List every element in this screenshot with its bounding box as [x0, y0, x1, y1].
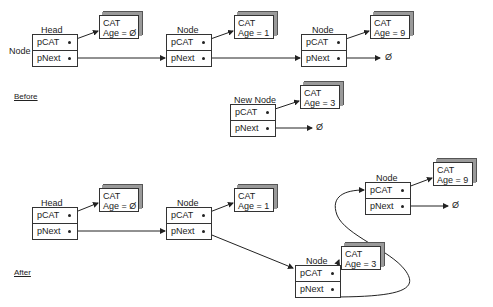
cat-box: CAT Age = 3 [341, 246, 381, 270]
cat-box: CAT Age = 1 [234, 188, 274, 212]
pcat-label: pCAT [171, 210, 193, 220]
pcat-field: pCAT [366, 183, 410, 198]
pcat-field: pCAT [296, 266, 340, 281]
cat-age: Age = Ø [103, 201, 138, 211]
pcat-field: pCAT [231, 105, 275, 120]
pointer-dot [202, 214, 205, 217]
pnext-label: pNext [300, 284, 324, 294]
cat-box: CAT Age = Ø [99, 188, 139, 212]
pnext-label: pNext [171, 53, 195, 63]
pcat-label: pCAT [171, 37, 193, 47]
pointer-dot [266, 127, 269, 130]
pcat-field: pCAT [33, 208, 77, 223]
pointer-dot [331, 272, 334, 275]
pcat-label: pCAT [37, 210, 59, 220]
pointer-dot [331, 288, 334, 291]
pointer-dot [266, 111, 269, 114]
cat-age: Age = 3 [304, 98, 339, 108]
pointer-dot [337, 57, 340, 60]
cat-age: Age = 1 [238, 28, 273, 38]
pcat-label: pCAT [306, 37, 328, 47]
pointer-dot [337, 41, 340, 44]
node-last: pCAT pNext [365, 182, 411, 215]
node-1: pCAT pNext [166, 34, 212, 67]
null-symbol: Ø [452, 200, 459, 210]
pnext-field: pNext [231, 120, 275, 136]
before-label: Before [14, 92, 38, 101]
pointer-dot [68, 41, 71, 44]
cat-box: CAT Age = 1 [234, 15, 274, 39]
cat-name: CAT [437, 165, 472, 175]
null-symbol: Ø [316, 122, 323, 132]
cat-box: CAT Age = 9 [370, 15, 410, 39]
pnext-label: pNext [235, 123, 259, 133]
pnext-field: pNext [302, 50, 346, 66]
node-side-label: Node [9, 46, 31, 56]
cat-box: CAT Age = 3 [300, 85, 340, 109]
cat-age: Age = Ø [103, 28, 138, 38]
pointer-dot [202, 41, 205, 44]
pcat-field: pCAT [167, 35, 211, 50]
cat-name: CAT [238, 18, 273, 28]
cat-age: Age = 1 [238, 201, 273, 211]
node-2: pCAT pNext [301, 34, 347, 67]
cat-age: Age = 3 [345, 259, 380, 269]
cat-age: Age = 9 [437, 175, 472, 185]
pcat-field: pCAT [33, 35, 77, 50]
pnext-label: pNext [37, 53, 61, 63]
pointer-dot [202, 230, 205, 233]
new-node: pCAT pNext [230, 104, 276, 137]
pointer-dot [401, 205, 404, 208]
pnext-field: pNext [33, 223, 77, 239]
null-symbol: Ø [385, 52, 392, 62]
pcat-label: pCAT [235, 107, 257, 117]
pointer-dot [68, 230, 71, 233]
pointer-dot [68, 57, 71, 60]
head-node: pCAT pNext [32, 34, 78, 67]
pointer-dot [202, 57, 205, 60]
pnext-field: pNext [366, 198, 410, 214]
cat-box: CAT Age = Ø [99, 15, 139, 39]
pcat-field: pCAT [302, 35, 346, 50]
cat-box: CAT Age = 9 [433, 162, 473, 186]
pnext-field: pNext [296, 281, 340, 297]
cat-name: CAT [103, 191, 138, 201]
pnext-label: pNext [306, 53, 330, 63]
pcat-label: pCAT [300, 268, 322, 278]
cat-name: CAT [374, 18, 409, 28]
pnext-field: pNext [33, 50, 77, 66]
pointer-dot [401, 189, 404, 192]
pcat-label: pCAT [370, 185, 392, 195]
cat-name: CAT [238, 191, 273, 201]
node-1: pCAT pNext [166, 207, 212, 240]
head-node: pCAT pNext [32, 207, 78, 240]
pcat-field: pCAT [167, 208, 211, 223]
pnext-label: pNext [370, 201, 394, 211]
cat-name: CAT [304, 88, 339, 98]
after-label: After [14, 268, 31, 277]
pnext-label: pNext [171, 226, 195, 236]
cat-name: CAT [103, 18, 138, 28]
inserted-node: pCAT pNext [295, 265, 341, 298]
pnext-field: pNext [167, 223, 211, 239]
pnext-field: pNext [167, 50, 211, 66]
pnext-label: pNext [37, 226, 61, 236]
pcat-label: pCAT [37, 37, 59, 47]
pointer-dot [68, 214, 71, 217]
cat-name: CAT [345, 249, 380, 259]
cat-age: Age = 9 [374, 28, 409, 38]
